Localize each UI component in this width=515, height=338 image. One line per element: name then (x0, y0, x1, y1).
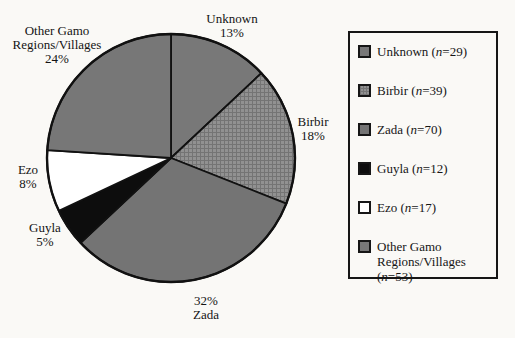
slice-label-birbir: Birbir 18% (284, 115, 342, 143)
legend-label-birbir: Birbir (n=39) (377, 83, 447, 98)
legend-box: Unknown (n=29) Birbir (n=39) Zada (n=70)… (348, 31, 498, 279)
legend-item-other-gamo: Other Gamo Regions/Villages (n=53) (358, 239, 492, 284)
legend-item-unknown: Unknown (n=29) (358, 44, 492, 59)
slice-label-ezo: Ezo 8% (2, 163, 54, 191)
legend-swatch-other-gamo (358, 240, 371, 253)
slice-label-guyla: Guyla 5% (16, 221, 74, 249)
slice-label-unknown: Unknown 13% (195, 12, 269, 40)
legend-label-unknown: Unknown (n=29) (377, 44, 467, 59)
legend-swatch-zada (358, 123, 371, 136)
slice-label-other-gamo: Other Gamo Regions/Villages 24% (3, 24, 111, 66)
legend-item-ezo: Ezo (n=17) (358, 200, 492, 215)
legend-label-other-gamo: Other Gamo Regions/Villages (n=53) (377, 239, 492, 284)
legend-label-guyla: Guyla (n=12) (377, 161, 448, 176)
legend-swatch-unknown (358, 45, 371, 58)
legend-swatch-birbir (358, 84, 371, 97)
legend-item-zada: Zada (n=70) (358, 122, 492, 137)
legend-label-ezo: Ezo (n=17) (377, 200, 436, 215)
legend-label-zada: Zada (n=70) (377, 122, 442, 137)
slice-label-zada: 32% Zada (174, 294, 238, 322)
legend-item-guyla: Guyla (n=12) (358, 161, 492, 176)
legend-swatch-guyla (358, 162, 371, 175)
legend-item-birbir: Birbir (n=39) (358, 83, 492, 98)
figure-page: Unknown 13% Birbir 18% 32% Zada Guyla 5%… (0, 0, 515, 338)
legend-swatch-ezo (358, 201, 371, 214)
